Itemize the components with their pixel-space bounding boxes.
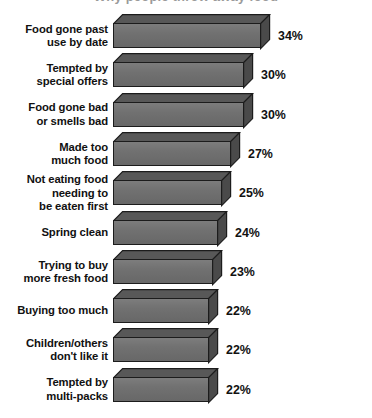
- bar-row: Spring clean24%: [0, 211, 372, 245]
- category-label-line: much food: [0, 154, 108, 167]
- bar-row: Made toomuch food27%: [0, 132, 372, 166]
- bar-row: Buying too much22%: [0, 289, 372, 323]
- bar: [113, 132, 239, 166]
- bar-row: Food gone bador smells bad30%: [0, 93, 372, 127]
- bar-row: Food gone pastuse by date34%: [0, 14, 372, 48]
- plot-area: Food gone pastuse by date34%Tempted bysp…: [0, 0, 372, 418]
- bar-value-label: 30%: [261, 68, 286, 82]
- category-label: Children/othersdon't like it: [0, 337, 108, 363]
- bar: [113, 171, 230, 205]
- bar-front-face: [113, 62, 244, 87]
- category-label: Not eating foodneeding tobe eaten first: [0, 173, 108, 213]
- category-label-line: multi-packs: [0, 390, 108, 403]
- bar-front-face: [113, 102, 244, 127]
- bar-row: Trying to buymore fresh food23%: [0, 250, 372, 284]
- bar-value-label: 22%: [226, 383, 251, 397]
- bar-front-face: [113, 180, 222, 205]
- bar-row: Children/othersdon't like it22%: [0, 328, 372, 362]
- bar-front-face: [113, 298, 209, 323]
- bar: [113, 93, 252, 127]
- category-label-line: Not eating food: [0, 173, 108, 186]
- category-label-line: Children/others: [0, 337, 108, 350]
- bar-front-face: [113, 259, 213, 284]
- bar-front-face: [113, 23, 261, 48]
- category-label-line: Food gone bad: [0, 101, 108, 114]
- category-label: Tempted byspecial offers: [0, 62, 108, 88]
- category-label: Tempted bymulti-packs: [0, 376, 108, 402]
- category-label-line: Buying too much: [0, 304, 108, 317]
- bar: [113, 14, 269, 48]
- bar-value-label: 22%: [226, 304, 251, 318]
- bar: [113, 211, 226, 245]
- category-label: Made toomuch food: [0, 141, 108, 167]
- category-label: Spring clean: [0, 226, 108, 239]
- bar-front-face: [113, 377, 209, 402]
- category-label: Food gone pastuse by date: [0, 23, 108, 49]
- category-label-line: use by date: [0, 36, 108, 49]
- bar: [113, 53, 252, 87]
- category-label: Trying to buymore fresh food: [0, 259, 108, 285]
- bar-value-label: 24%: [235, 226, 260, 240]
- category-label-line: needing to: [0, 187, 108, 200]
- bar: [113, 368, 217, 402]
- category-label-line: Food gone past: [0, 23, 108, 36]
- bar-row: Tempted byspecial offers30%: [0, 53, 372, 87]
- category-label: Food gone bador smells bad: [0, 101, 108, 127]
- category-label-line: Tempted by: [0, 376, 108, 389]
- category-label-line: Made too: [0, 141, 108, 154]
- bar-row: Not eating foodneeding tobe eaten first2…: [0, 171, 372, 205]
- category-label-line: Tempted by: [0, 62, 108, 75]
- bar-value-label: 25%: [239, 186, 264, 200]
- category-label-line: special offers: [0, 75, 108, 88]
- bar-value-label: 22%: [226, 343, 251, 357]
- category-label-line: or smells bad: [0, 115, 108, 128]
- bar: [113, 328, 217, 362]
- bar-front-face: [113, 337, 209, 362]
- bar: [113, 289, 217, 323]
- bar-chart: Why people throw away food Food gone pas…: [0, 0, 372, 418]
- bar: [113, 250, 221, 284]
- bar-value-label: 34%: [278, 29, 303, 43]
- bar-value-label: 27%: [248, 147, 273, 161]
- category-label-line: Trying to buy: [0, 259, 108, 272]
- bar-value-label: 23%: [230, 265, 255, 279]
- category-label-line: don't like it: [0, 350, 108, 363]
- bar-row: Tempted bymulti-packs22%: [0, 368, 372, 402]
- bar-value-label: 30%: [261, 108, 286, 122]
- category-label-line: Spring clean: [0, 226, 108, 239]
- bar-front-face: [113, 141, 231, 166]
- category-label: Buying too much: [0, 304, 108, 317]
- bar-front-face: [113, 220, 218, 245]
- category-label-line: more fresh food: [0, 272, 108, 285]
